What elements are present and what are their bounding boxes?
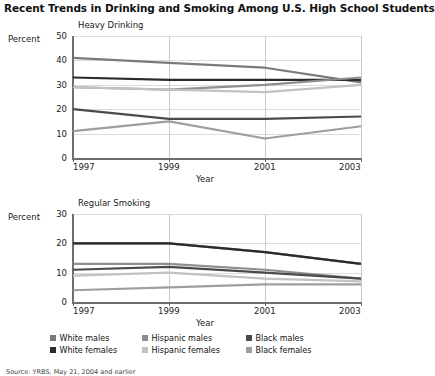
y-tick-30: 30 <box>41 80 67 90</box>
y-tick-0: 0 <box>41 153 67 163</box>
x-tick-1999: 1999 <box>158 306 180 316</box>
plot-area-heavy-drinking: 010203040501997199920012003 <box>73 36 361 158</box>
x-axis-label-heavy-drinking: Year <box>196 174 214 184</box>
y-tick-50: 50 <box>41 31 67 41</box>
legend-label-white-females: White females <box>60 346 118 355</box>
legend-swatch-white-females <box>50 347 56 353</box>
x-tick-1999: 1999 <box>158 162 180 172</box>
series-line-white-females <box>73 243 361 264</box>
y-axis-label-regular-smoking: Percent <box>8 212 40 222</box>
series-layer <box>73 36 363 160</box>
legend-swatch-hispanic-males <box>142 335 148 341</box>
legend-item-hispanic-females: Hispanic females <box>142 346 246 355</box>
y-tick-20: 20 <box>41 238 67 248</box>
chart-heavy-drinking: Heavy Drinking Percent 01020304050199719… <box>0 0 385 190</box>
series-line-black-females <box>73 121 361 138</box>
x-tick-2003: 2003 <box>339 162 361 172</box>
y-tick-20: 20 <box>41 104 67 114</box>
chart-title-regular-smoking: Regular Smoking <box>78 198 150 208</box>
series-line-white-males <box>73 243 361 264</box>
x-tick-1997: 1997 <box>73 306 95 316</box>
x-tick-2001: 2001 <box>254 162 276 172</box>
y-tick-30: 30 <box>41 209 67 219</box>
series-line-black-males <box>73 109 361 119</box>
chart-title-heavy-drinking: Heavy Drinking <box>78 20 143 30</box>
series-layer <box>73 214 363 304</box>
series-line-hispanic-females <box>73 85 361 92</box>
legend-swatch-white-males <box>50 335 56 341</box>
legend-item-white-males: White males <box>50 334 142 343</box>
y-tick-40: 40 <box>41 55 67 65</box>
legend-item-black-females: Black females <box>246 346 336 355</box>
y-axis-label-heavy-drinking: Percent <box>8 34 40 44</box>
x-tick-1997: 1997 <box>73 162 95 172</box>
legend-swatch-black-males <box>246 335 252 341</box>
series-line-white-females <box>73 77 361 79</box>
x-axis-label-regular-smoking: Year <box>196 318 214 328</box>
legend-row-males: White males Hispanic males Black males <box>0 332 385 344</box>
legend-label-white-males: White males <box>60 334 110 343</box>
plot-area-regular-smoking: 01020301997199920012003 <box>73 214 361 302</box>
chart-legend: White males Hispanic males Black males W… <box>0 332 385 356</box>
chart-regular-smoking: Regular Smoking Percent 0102030199719992… <box>0 190 385 330</box>
series-line-black-males <box>73 267 361 279</box>
legend-label-black-females: Black females <box>256 346 312 355</box>
x-tick-2003: 2003 <box>339 306 361 316</box>
legend-swatch-hispanic-females <box>142 347 148 353</box>
legend-label-hispanic-females: Hispanic females <box>152 346 220 355</box>
legend-label-black-males: Black males <box>256 334 304 343</box>
x-tick-2001: 2001 <box>254 306 276 316</box>
legend-label-hispanic-males: Hispanic males <box>152 334 213 343</box>
series-line-black-females <box>73 284 361 290</box>
legend-row-females: White females Hispanic females Black fem… <box>0 344 385 356</box>
legend-item-white-females: White females <box>50 346 142 355</box>
y-tick-10: 10 <box>41 268 67 278</box>
y-tick-0: 0 <box>41 297 67 307</box>
source-note: Source: YRBS, May 21, 2004 and earlier <box>6 368 385 376</box>
legend-swatch-black-females <box>246 347 252 353</box>
legend-item-black-males: Black males <box>246 334 336 343</box>
y-tick-10: 10 <box>41 129 67 139</box>
legend-item-hispanic-males: Hispanic males <box>142 334 246 343</box>
